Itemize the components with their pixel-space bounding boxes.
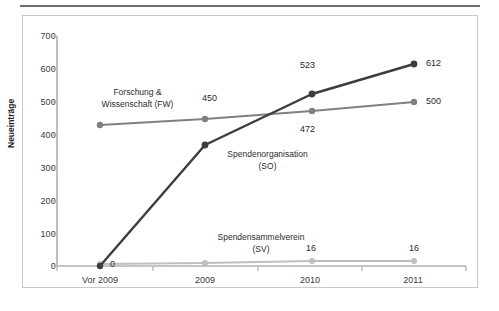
data-label-sv-2011: 16 — [409, 243, 419, 253]
series-annotation-fw-line2: Wissenschaft (FW) — [80, 98, 195, 110]
series-point-fw-3 — [411, 99, 417, 105]
series-point-sv-2 — [309, 258, 315, 264]
series-annotation-fw-line1: Forschung & — [80, 86, 195, 98]
series-point-fw-0 — [97, 122, 103, 128]
series-annotation-sv: Spendensammelverein (SV) — [196, 231, 326, 255]
data-label-so-2011: 612 — [426, 58, 441, 68]
series-line-sv — [100, 261, 414, 264]
series-point-so-2 — [309, 91, 316, 98]
data-label-fw-2009: 450 — [202, 93, 217, 103]
data-label-so-vor2009: 0 — [110, 259, 115, 269]
series-point-fw-1 — [202, 116, 208, 122]
series-point-sv-3 — [411, 258, 417, 264]
data-label-so-2010: 523 — [300, 60, 315, 70]
series-annotation-sv-line2: (SV) — [196, 243, 326, 255]
series-point-sv-1 — [202, 260, 208, 266]
series-annotation-so-line2: (SO) — [205, 160, 330, 172]
series-annotation-fw: Forschung & Wissenschaft (FW) — [80, 86, 195, 110]
data-label-fw-2010: 472 — [300, 124, 315, 134]
series-point-so-0 — [97, 263, 103, 269]
series-point-so-3 — [411, 61, 418, 68]
series-point-fw-2 — [309, 108, 315, 114]
series-annotation-so: Spendenorganisation (SO) — [205, 148, 330, 172]
series-annotation-so-line1: Spendenorganisation — [205, 148, 330, 160]
chart-page: Neueinträge 700 600 500 400 300 200 100 … — [0, 0, 499, 311]
data-label-fw-2011: 500 — [426, 96, 441, 106]
series-annotation-sv-line1: Spendensammelverein — [196, 231, 326, 243]
